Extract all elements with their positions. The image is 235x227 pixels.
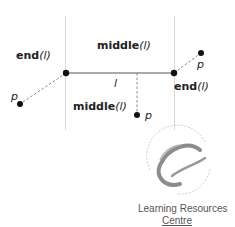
label-fn: middle xyxy=(97,39,139,52)
label-middle-top: middle(l) xyxy=(97,40,151,51)
endpoint-left xyxy=(63,70,69,76)
point-label-p-middle: p xyxy=(145,110,152,121)
label-arg: (l) xyxy=(197,80,209,93)
label-arg: (l) xyxy=(39,49,51,62)
segment-label-l: l xyxy=(114,78,117,89)
point-p-right xyxy=(198,50,204,56)
point-p-middle xyxy=(134,112,140,118)
diagram-canvas xyxy=(0,0,235,227)
dashed-distance-left xyxy=(20,73,66,104)
point-label-p-left: p xyxy=(11,91,18,102)
label-arg: (l) xyxy=(115,100,127,113)
label-end-left: end(l) xyxy=(16,50,51,61)
watermark-line1: Learning Resources xyxy=(138,204,228,214)
label-arg: (l) xyxy=(139,39,151,52)
endpoint-right xyxy=(171,70,177,76)
label-end-right: end(l) xyxy=(174,81,209,92)
university-logo-icon xyxy=(147,125,210,194)
label-middle-bottom: middle(l) xyxy=(73,101,127,112)
label-fn: end xyxy=(16,49,39,62)
label-fn: middle xyxy=(73,100,115,113)
logo-ring-bottom xyxy=(178,168,210,194)
label-fn: end xyxy=(174,80,197,93)
point-label-p-right: p xyxy=(197,59,204,70)
watermark-line2: Centre xyxy=(162,216,192,226)
